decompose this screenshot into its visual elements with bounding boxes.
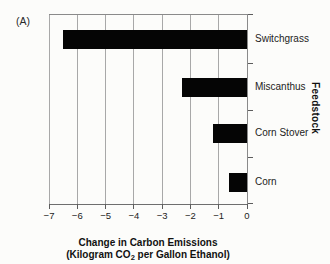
bar-switchgrass [63,30,247,49]
panel-label: (A) [16,15,30,27]
figure-panel-a: (A) SwitchgrassMiscanthusCorn StoverCorn… [0,0,330,264]
y-tick-0 [248,14,253,15]
bar-label-corn-stover: Corn Stover [255,126,308,139]
y-tick-4 [248,203,253,204]
x-tick--5 [105,204,106,209]
y-axis-title: Feedstock [307,48,321,169]
bar-label-switchgrass: Switchgrass [255,32,309,45]
x-tick-label--6: −6 [66,210,88,221]
x-axis-title: Change in Carbon Emissions (Kilogram CO2… [0,237,296,264]
gridline--7 [49,15,50,204]
x-tick--4 [133,204,134,209]
x-tick-label--5: −5 [95,210,117,221]
x-tick-label-0: 0 [236,210,258,221]
x-tick-label--2: −2 [179,210,201,221]
x-tick-label--1: −1 [208,210,230,221]
x-axis-title-line1: Change in Carbon Emissions [0,237,296,249]
x-tick--1 [218,204,219,209]
y-tick-2 [248,110,253,111]
y-tick-3 [248,157,253,158]
x-tick-label--3: −3 [151,210,173,221]
bar-corn-stover [213,124,247,143]
bar-corn [229,173,247,192]
x-tick--7 [49,204,50,209]
x-axis-title-line2: (Kilogram CO2 per Gallon Ethanol) [0,249,296,264]
x-tick--6 [77,204,78,209]
x-tick-0 [247,204,248,209]
plot-area [49,14,248,205]
x-tick--3 [162,204,163,209]
bar-label-corn: Corn [255,175,277,188]
x-tick--2 [190,204,191,209]
bar-label-miscanthus: Miscanthus [255,80,306,93]
y-tick-1 [248,63,253,64]
bar-miscanthus [182,78,247,97]
x-tick-label--4: −4 [123,210,145,221]
x-tick-label--7: −7 [38,210,60,221]
